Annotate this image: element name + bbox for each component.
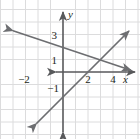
y-axis-label: y — [67, 8, 73, 20]
x-tick-label-neg2: −2 — [18, 73, 30, 85]
x-tick-label-2: 2 — [85, 73, 91, 85]
coordinate-plane-figure: −2 2 4 3 1 −1 y x — [0, 0, 140, 139]
graph-canvas: −2 2 4 3 1 −1 y x — [0, 0, 140, 139]
x-tick-label-4: 4 — [110, 73, 116, 85]
axes — [56, 12, 135, 132]
y-tick-label-1: 1 — [52, 54, 58, 66]
grid-lines — [0, 0, 140, 139]
y-tick-label-neg1: −1 — [47, 82, 59, 94]
y-tick-label-3: 3 — [52, 29, 58, 41]
x-axis-label: x — [122, 73, 128, 85]
